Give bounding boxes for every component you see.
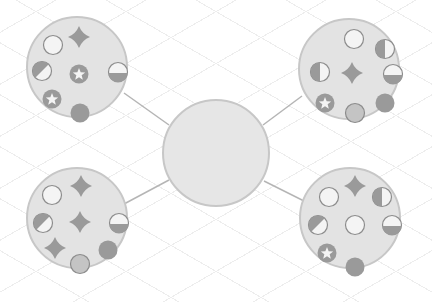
filled-circle-icon [99,241,118,260]
star-circle-icon [43,90,62,109]
connector-line-bottom-left [124,180,169,204]
filled-circle-icon [71,104,90,123]
node-top-right[interactable] [299,19,403,123]
star-circle-icon [316,94,335,113]
bottom-half-circle-icon [109,63,128,83]
left-half-circle-icon [376,40,395,59]
bottom-half-circle-icon [384,65,403,85]
connector-line-top-left [124,93,169,125]
connector-line-bottom-right [264,181,304,201]
filled-circle-icon [376,94,395,113]
empty-circle-icon [346,216,365,235]
shaded-circle-icon [71,255,90,274]
star-circle-icon [70,65,89,84]
bottom-half-circle-icon [383,216,402,236]
connector-line-top-right [263,96,302,125]
shaded-circle-icon [346,104,365,123]
hub-and-spoke-diagram [0,0,432,302]
diagonal-half-circle-icon [33,62,52,81]
empty-circle-icon [44,36,63,55]
central-hub-circle[interactable] [163,100,269,206]
left-half-circle-icon [373,188,392,207]
empty-circle-icon [43,186,62,205]
empty-circle-icon [320,188,339,207]
diagonal-half-circle-icon [309,216,328,235]
bottom-half-circle-icon [110,214,129,234]
star-circle-icon [318,244,337,263]
diagonal-half-circle-icon [33,214,52,233]
node-bottom-right[interactable] [300,168,402,277]
node-top-left[interactable] [27,17,128,123]
node-bottom-left[interactable] [27,168,129,274]
left-half-circle-icon [311,63,330,82]
filled-circle-icon [346,258,365,277]
empty-circle-icon [345,30,364,49]
